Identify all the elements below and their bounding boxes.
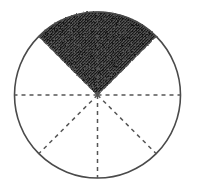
radial-dividers-group: [15, 12, 181, 178]
figure-container: [0, 0, 197, 192]
circle-sector-diagram: [0, 0, 197, 192]
